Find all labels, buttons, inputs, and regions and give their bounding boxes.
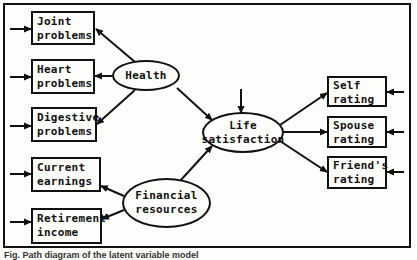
indicator-heart-problems: Heart problems [31,59,95,94]
indicator-label: Retirement [37,212,100,226]
edge-life-self [280,93,327,125]
latent-financial-resources: Financial resources [122,178,211,228]
indicator-self-rating: Self rating [327,76,387,107]
indicator-digestive-problems: Digestive problems [31,107,97,142]
latent-label: Financial [135,189,197,203]
indicator-retirement-income: Retirement income [31,208,102,244]
indicator-label: problems [37,125,95,139]
edge-health-joint [96,29,135,62]
indicator-label: problems [37,77,93,91]
indicator-spouse-rating: Spouse rating [327,116,387,148]
edge-financial-life [180,146,212,181]
latent-life-satisfaction: Life satisfaction [202,112,284,153]
indicator-label: Joint [37,15,93,29]
latent-label: resources [135,203,197,217]
indicator-label: earnings [37,175,99,189]
latent-health: Health [112,60,180,91]
indicator-label: rating [333,93,385,107]
indicator-label: rating [333,173,385,187]
edge-health-life [177,88,212,120]
indicator-joint-problems: Joint problems [31,11,95,45]
indicator-label: Friend's [333,159,385,173]
indicator-label: Spouse [333,119,385,133]
indicator-current-earnings: Current earnings [31,157,101,192]
indicator-label: Self [333,79,385,93]
indicator-label: problems [37,29,93,43]
indicator-label: Current [37,161,99,175]
latent-label: Health [125,69,167,83]
edge-health-digestive [97,90,135,124]
latent-label: Life [229,119,257,133]
latent-label: satisfaction [201,133,284,147]
indicator-label: income [37,226,100,240]
indicator-friends-rating: Friend's rating [327,156,387,189]
indicator-label: Digestive [37,111,95,125]
figure-caption: Fig. Path diagram of the latent variable… [4,250,199,260]
indicator-label: Heart [37,63,93,77]
edge-financial-current [101,186,124,196]
edge-life-friend [280,141,327,172]
indicator-label: rating [333,133,385,147]
